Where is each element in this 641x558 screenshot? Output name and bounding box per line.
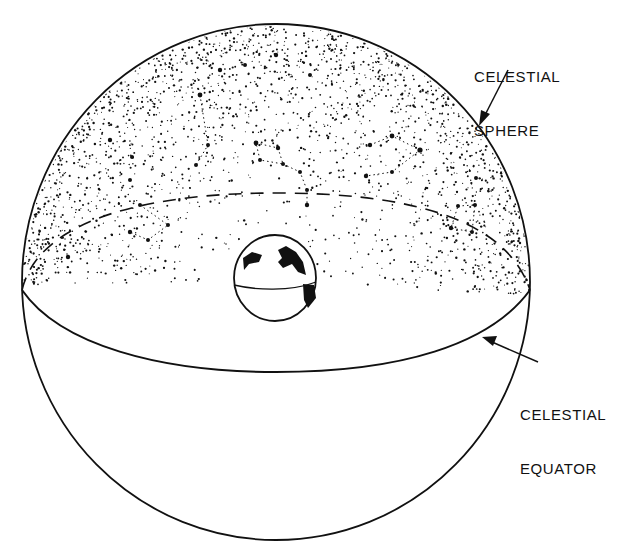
celestial-sphere-label-line1: CELESTIAL: [474, 68, 560, 86]
celestial-sphere-label: CELESTIAL SPHERE: [474, 32, 560, 158]
equator-label-arrow: [482, 336, 538, 362]
constellations: [130, 95, 475, 240]
celestial-equator-label-line2: EQUATOR: [520, 460, 606, 478]
earth-globe: [234, 235, 316, 321]
celestial-sphere-label-line2: SPHERE: [474, 122, 560, 140]
celestial-equator-label-line1: CELESTIAL: [520, 406, 606, 424]
celestial-equator-label: CELESTIAL EQUATOR: [520, 370, 606, 496]
